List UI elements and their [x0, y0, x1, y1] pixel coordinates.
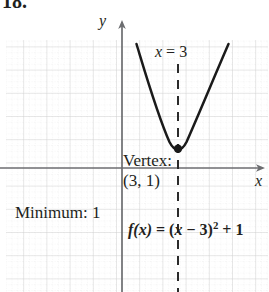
equals-sign: =: [152, 221, 169, 238]
minus-sign: −: [182, 221, 199, 238]
graph-canvas: [0, 0, 269, 292]
vertex-label: Vertex:: [123, 151, 172, 171]
axis-of-symmetry-value: = 3: [162, 43, 187, 60]
axis-of-symmetry-label: x = 3: [155, 43, 187, 61]
inner-constant: 3: [200, 221, 208, 238]
function-equation: f(x) = (x − 3)2 + 1: [128, 221, 243, 239]
figure-container: 18.: [0, 0, 269, 292]
minimum-label: Minimum: 1: [15, 203, 100, 223]
function-argument: (x): [133, 221, 152, 238]
vertex-point: [174, 145, 182, 153]
parabola-graph: [0, 0, 269, 292]
trailing-constant: 1: [235, 221, 243, 238]
plus-sign: +: [218, 221, 235, 238]
y-axis-label: y: [99, 12, 106, 30]
vertex-coordinates: (3, 1): [123, 171, 160, 191]
x-axis-label: x: [255, 172, 262, 190]
